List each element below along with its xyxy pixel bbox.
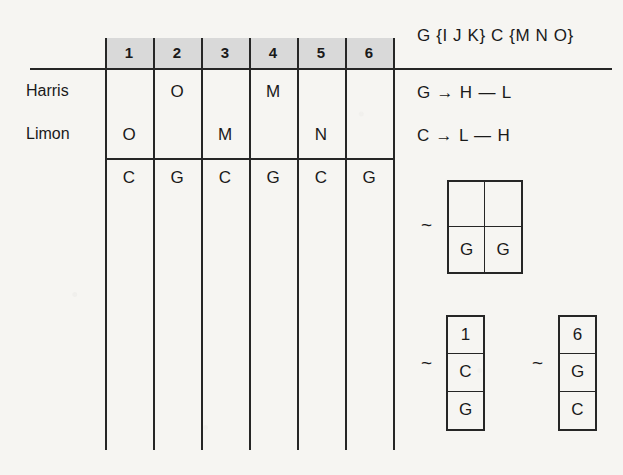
document-page: 1 2 3 4 5 6 Harris O M Limon O M N C G C…	[0, 0, 623, 475]
column-line-6	[393, 38, 395, 450]
column-line-5	[345, 38, 347, 450]
column-header-2: 2	[153, 40, 201, 66]
row-label-limon: Limon	[26, 125, 98, 143]
column-header-5: 5	[297, 40, 345, 66]
punnett-grid: G G	[447, 180, 523, 274]
stack-right-cell-2: G	[560, 354, 595, 391]
punnett-cell-1	[449, 182, 485, 227]
tilde-symbol-punnett: ~	[421, 214, 432, 236]
tilde-symbol-stack-left: ~	[421, 352, 432, 374]
sets-definition: G {I J K} C {M N O}	[417, 26, 574, 46]
stack-right-cell-1: 6	[560, 317, 595, 354]
punnett-cell-2	[485, 182, 521, 227]
summary-cell-2: G	[153, 168, 201, 188]
cell-limon-1: O	[105, 125, 153, 145]
rule-g: G → H — L	[417, 83, 512, 103]
summary-cell-6: G	[345, 168, 393, 188]
column-line-2	[201, 38, 203, 450]
row-label-harris: Harris	[26, 82, 98, 100]
column-header-6: 6	[345, 40, 393, 66]
summary-rule	[105, 158, 395, 160]
summary-cell-1: C	[105, 168, 153, 188]
stack-left-cell-3: G	[448, 392, 483, 429]
stack-left-cell-1: 1	[448, 317, 483, 354]
column-header-1: 1	[105, 40, 153, 66]
cell-limon-3: M	[201, 125, 249, 145]
cell-harris-2: O	[153, 82, 201, 102]
summary-cell-5: C	[297, 168, 345, 188]
summary-cell-3: C	[201, 168, 249, 188]
rule-c: C → L — H	[417, 126, 510, 146]
column-header-3: 3	[201, 40, 249, 66]
stack-left: 1 C G	[446, 315, 485, 431]
column-line-4	[297, 38, 299, 450]
stack-right-cell-3: C	[560, 392, 595, 429]
column-header-4: 4	[249, 40, 297, 66]
cell-harris-4: M	[249, 82, 297, 102]
schedule-table: 1 2 3 4 5 6 Harris O M Limon O M N C G C…	[0, 0, 400, 475]
stack-left-cell-2: C	[448, 354, 483, 391]
tilde-symbol-stack-right: ~	[532, 352, 543, 374]
summary-cell-4: G	[249, 168, 297, 188]
punnett-cell-3: G	[449, 227, 485, 272]
stack-right: 6 G C	[558, 315, 597, 431]
column-line-0	[105, 38, 107, 450]
punnett-cell-4: G	[485, 227, 521, 272]
cell-limon-5: N	[297, 125, 345, 145]
